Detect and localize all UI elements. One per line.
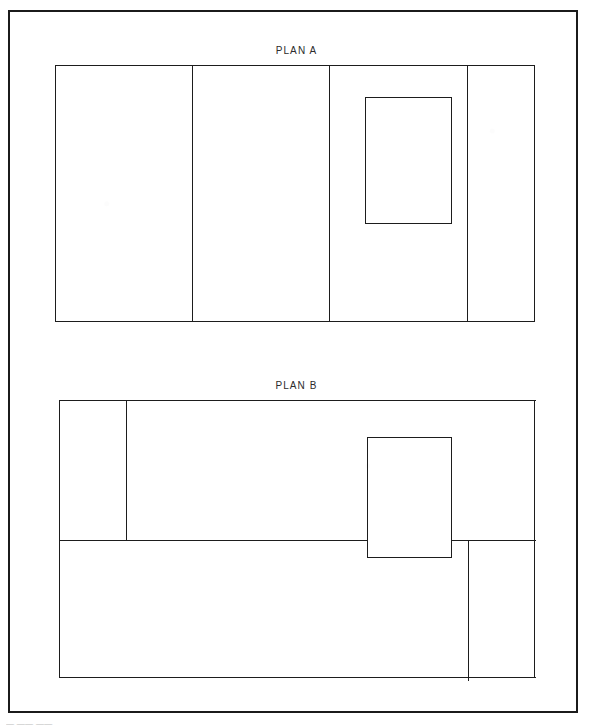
plan-b-bottom-edge bbox=[59, 677, 536, 678]
plan-b-lower-divider bbox=[468, 540, 469, 681]
plan-a-outline bbox=[55, 65, 535, 322]
plan-a-divider-2 bbox=[329, 65, 330, 322]
plan-a-divider-1 bbox=[192, 65, 193, 322]
bottom-caption: — —— —— bbox=[6, 719, 156, 728]
plan-b-left-edge bbox=[59, 400, 60, 678]
plan-b-title: PLAN B bbox=[0, 380, 593, 391]
plan-sheet: PLAN A PLAN B — —— —— bbox=[0, 0, 593, 728]
plan-b-right-edge bbox=[534, 400, 535, 678]
plan-b-top-edge bbox=[59, 400, 536, 401]
plan-a-inner-room bbox=[365, 97, 452, 224]
plan-a-divider-3 bbox=[467, 65, 468, 322]
plan-b-mid-line-left bbox=[59, 540, 368, 541]
plan-b-mid-line-right bbox=[452, 540, 536, 541]
plan-b-inner-room bbox=[367, 437, 452, 558]
plan-a-title: PLAN A bbox=[0, 45, 593, 56]
plan-b-upper-divider bbox=[126, 400, 127, 541]
